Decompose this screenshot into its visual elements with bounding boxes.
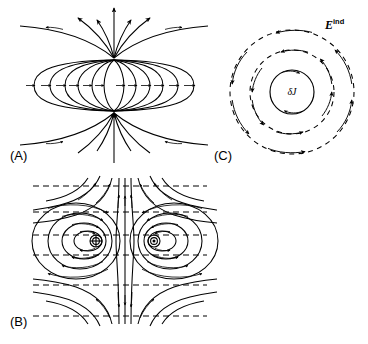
panel-c-current-label: δJ (287, 86, 297, 97)
panel-b-label: (B) (10, 314, 27, 329)
panel-a-dipole-field: (A) (10, 8, 208, 163)
figure-svg: (A) (0, 0, 368, 344)
conductor-out-of-page-icon (148, 235, 160, 247)
panel-a-top-open-lines (78, 8, 150, 58)
conductor-into-page-icon (90, 235, 102, 247)
figure-container: (A) (0, 0, 368, 344)
panel-c-field-label-superscript: ind (333, 17, 345, 26)
panel-a-label: (A) (10, 148, 27, 163)
panel-c-field-label-base: E (324, 18, 333, 32)
panel-c-induced-field: δJ E ind (C) (214, 17, 354, 163)
panel-a-bottom-open-lines (78, 113, 150, 163)
panel-b-two-conductor-field: (B) (10, 176, 218, 329)
panel-c-label: (C) (214, 148, 232, 163)
panel-c-field-label: E ind (324, 17, 345, 32)
